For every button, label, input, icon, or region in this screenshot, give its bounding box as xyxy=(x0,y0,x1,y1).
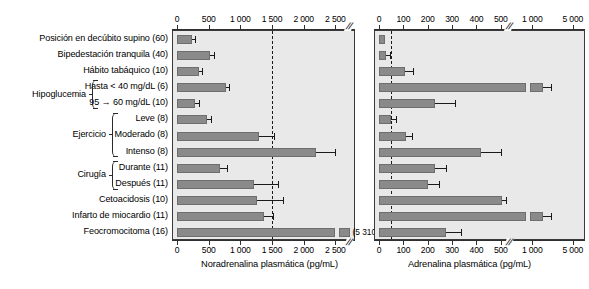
group-label: Cirugía xyxy=(0,169,106,179)
data-bar xyxy=(177,148,316,157)
axis-tick xyxy=(573,25,574,29)
axis-tick xyxy=(209,25,210,29)
category-label-row: Feocromocitoma (16) xyxy=(0,224,170,240)
error-bar-cap xyxy=(199,100,200,107)
category-label: Intenso (8) xyxy=(126,147,168,156)
error-bar-cap xyxy=(335,149,336,156)
axis-tick xyxy=(272,25,273,29)
category-label: Hábito tabáquico (10) xyxy=(83,66,168,75)
data-bar xyxy=(177,67,199,76)
category-label: Leve (8) xyxy=(135,114,168,123)
adrenaline-axis-title: Adrenalina plasmática (pg/mL) xyxy=(408,259,531,269)
data-bar xyxy=(379,228,446,237)
axis-tick xyxy=(532,25,533,29)
data-bar xyxy=(177,180,254,189)
data-bar xyxy=(177,164,220,173)
category-label: Posición en decúbito supino (60) xyxy=(39,34,168,43)
group-label: Hipoglucemia xyxy=(0,89,86,99)
data-bar xyxy=(379,35,385,44)
axis-tick-label: 100 xyxy=(396,245,410,255)
noradrenaline-axis-title: Noradrenalina plasmática (pg/mL) xyxy=(201,259,338,269)
data-bar xyxy=(379,83,526,92)
axis-tick xyxy=(304,25,305,29)
error-bar-cap xyxy=(455,100,456,107)
data-bar xyxy=(379,212,526,221)
axis-tick-label: 1 000 xyxy=(230,14,251,24)
data-bar xyxy=(177,83,226,92)
category-label: Bipedestación tranquila (40) xyxy=(58,50,168,59)
category-label: Durante (11) xyxy=(119,163,168,172)
axis-tick-label: 2 500 xyxy=(325,14,346,24)
data-bar xyxy=(379,132,406,141)
group-brace xyxy=(112,161,120,189)
axis-tick-label: 1 500 xyxy=(262,14,283,24)
category-label-row: Leve (8) xyxy=(0,111,170,127)
error-bar-cap xyxy=(461,229,462,236)
error-bar-cap xyxy=(202,68,203,75)
axis-tick xyxy=(335,25,336,29)
data-bar xyxy=(177,115,207,124)
data-bar xyxy=(177,99,195,108)
category-label: 95 → 60 mg/dL (10) xyxy=(89,98,168,107)
catecholamine-bar-figure: Posición en decúbito supino (60)Bipedest… xyxy=(0,0,589,289)
error-bar-cap xyxy=(214,52,215,59)
category-label: Cetoacidosis (10) xyxy=(99,195,168,204)
error-bar-cap xyxy=(506,197,507,204)
axis-tick-label: 300 xyxy=(445,245,459,255)
error-bar-cap xyxy=(227,165,228,172)
error-bar xyxy=(481,152,500,153)
axis-tick-label: 0 xyxy=(175,14,180,24)
category-label-row: Posición en decúbito supino (60) xyxy=(0,30,170,46)
category-label: Después (11) xyxy=(115,179,168,188)
axis-tick-label: 1 000 xyxy=(522,14,543,24)
axis-tick xyxy=(452,25,453,29)
error-bar xyxy=(543,216,551,217)
axis-tick-label: 0 xyxy=(377,14,382,24)
axis-tick-label: 200 xyxy=(421,245,435,255)
axis-tick xyxy=(177,25,178,29)
axis-tick xyxy=(501,25,502,29)
axis-tick xyxy=(428,25,429,29)
category-label-row: Cetoacidosis (10) xyxy=(0,192,170,208)
error-bar xyxy=(435,103,454,104)
axis-line-bottom xyxy=(172,240,355,241)
data-bar xyxy=(177,212,264,221)
data-bar xyxy=(379,148,481,157)
data-bar xyxy=(379,99,435,108)
error-bar xyxy=(220,168,227,169)
axis-tick xyxy=(403,25,404,29)
axis-tick-label: 300 xyxy=(445,14,459,24)
axis-tick-label: 1 500 xyxy=(262,245,283,255)
error-bar xyxy=(316,152,335,153)
error-bar-cap xyxy=(274,133,275,140)
group-brace xyxy=(112,113,120,157)
category-label-row: Intenso (8) xyxy=(0,143,170,159)
data-bar xyxy=(379,115,391,124)
category-label-row: Bipedestación tranquila (40) xyxy=(0,46,170,62)
error-bar xyxy=(405,71,414,72)
axis-break-marker: // xyxy=(504,238,514,247)
axis-tick-label: 1 000 xyxy=(522,245,543,255)
axis-tick-label: 0 xyxy=(175,245,180,255)
data-bar xyxy=(177,228,335,237)
error-bar-cap xyxy=(229,84,230,91)
axis-tick xyxy=(476,25,477,29)
axis-tick-label: 400 xyxy=(470,14,484,24)
adrenaline-plot-area xyxy=(375,31,584,239)
error-bar-cap xyxy=(412,133,413,140)
axis-tick xyxy=(240,25,241,29)
error-bar-cap xyxy=(283,197,284,204)
axis-tick-label: 2 500 xyxy=(325,245,346,255)
group-brace xyxy=(92,80,100,108)
data-bar xyxy=(379,67,405,76)
axis-tick-label: 500 xyxy=(202,14,216,24)
category-label: Moderado (8) xyxy=(115,130,168,139)
error-bar xyxy=(257,200,283,201)
error-bar-cap xyxy=(396,116,397,123)
category-label-row: Hábito tabáquico (10) xyxy=(0,62,170,78)
axis-tick-label: 200 xyxy=(421,14,435,24)
error-bar xyxy=(543,87,551,88)
error-bar xyxy=(264,216,273,217)
axis-tick-label: 5 000 xyxy=(563,245,584,255)
error-bar xyxy=(446,232,461,233)
